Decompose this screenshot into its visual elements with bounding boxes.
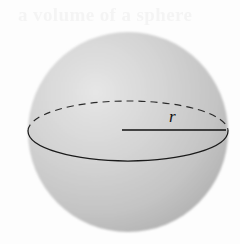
sphere-body (28, 32, 228, 232)
sphere-diagram (0, 0, 240, 244)
radius-label: r (169, 107, 176, 127)
figure-canvas: a volume of a sphere r (0, 0, 240, 244)
